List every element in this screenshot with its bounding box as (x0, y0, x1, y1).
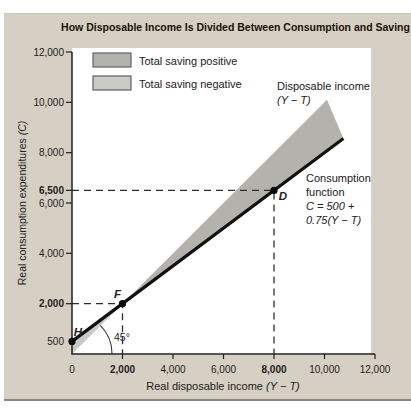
y-axis-title: Real consumption expenditures (C) (16, 121, 28, 286)
legend-swatch (93, 76, 131, 90)
figure: How Disposable Income Is Divided Between… (0, 0, 411, 415)
consumption-line-label: Consumption (306, 172, 371, 184)
point-F (119, 300, 126, 307)
legend-label: Total saving negative (139, 78, 242, 90)
consumption-line-label: C = 500 + (306, 200, 355, 212)
point-H (68, 338, 75, 345)
x-tick-label: 10,000 (309, 364, 340, 375)
point-label-H: H (74, 326, 83, 338)
y-tick-label: 4,000 (39, 248, 64, 259)
point-label-D: D (279, 190, 287, 202)
y-tick-label: 8,000 (39, 147, 64, 158)
point-D (270, 187, 277, 194)
x-tick-label: 6,000 (211, 364, 236, 375)
income-line-label: Disposable income (277, 80, 370, 92)
income-line-label: (Y − T) (277, 94, 311, 106)
y-tick-label: 500 (47, 336, 64, 347)
y-tick-label: 6,500 (39, 185, 64, 196)
consumption-line-label: 0.75(Y − T) (306, 214, 361, 226)
x-tick-label: 4,000 (160, 364, 185, 375)
y-tick-label: 6,000 (39, 198, 64, 209)
y-tick-label: 2,000 (39, 298, 64, 309)
x-tick-label: 8,000 (261, 364, 286, 375)
y-tick-label: 12,000 (33, 47, 64, 58)
y-tick-label: 10,000 (33, 97, 64, 108)
x-tick-label: 12,000 (360, 364, 391, 375)
point-label-F: F (114, 288, 122, 300)
x-tick-label: 0 (69, 364, 75, 375)
x-axis-title: Real disposable income (Y − T) (146, 380, 300, 392)
chart: 45°02,0004,0006,0008,00010,00012,000Real… (0, 0, 411, 415)
x-tick-label: 2,000 (110, 364, 135, 375)
legend-label: Total saving positive (139, 55, 237, 67)
legend-swatch (93, 53, 131, 67)
consumption-line-label: function (306, 186, 345, 198)
